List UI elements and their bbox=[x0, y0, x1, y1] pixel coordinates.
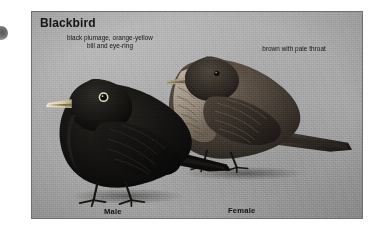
scanned-page: Blackbird black plumage, orange-yellow b… bbox=[0, 0, 371, 229]
page-edge-mark-icon bbox=[0, 26, 8, 40]
specimen-label-female: Female bbox=[228, 206, 255, 215]
figure-title: Blackbird bbox=[40, 16, 96, 30]
blackbird-figure-photo: Blackbird black plumage, orange-yellow b… bbox=[31, 11, 363, 219]
annotation-female-description: brown with pale throat bbox=[230, 45, 358, 53]
specimen-label-male: Male bbox=[104, 207, 122, 216]
annotation-male-description: black plumage, orange-yellow bill and ey… bbox=[42, 34, 178, 51]
